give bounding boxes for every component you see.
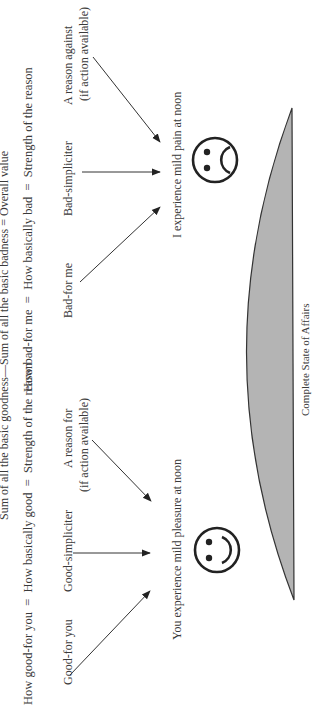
good-for-you-arrow: [70, 591, 150, 675]
overall-value-equation: Sum of all the basic goodness—Sum of all…: [0, 151, 11, 520]
reason-for-condition: (if action available): [77, 398, 91, 492]
smiling-face-icon: [195, 528, 239, 572]
reason-against-arrow: [93, 57, 160, 142]
good-side-equation: How good-for you = How basically good = …: [21, 362, 35, 705]
reason-against-label: A reason against: [61, 25, 75, 105]
pleasure-statement: You experience mild pleasure at noon: [170, 459, 184, 640]
bad-simpliciter-label: Bad-simpliciter: [61, 141, 75, 216]
reason-for-arrow: [92, 440, 151, 501]
frowning-face-icon: [193, 138, 237, 182]
value-diagram: Sum of all the basic goodness—Sum of all…: [0, 0, 317, 710]
good-for-you-label: Good-for you: [61, 619, 75, 685]
bad-side-equation: How bad-for me = How basically bad = Str…: [21, 66, 35, 392]
state-of-affairs-label: Complete State of Affairs: [299, 303, 311, 416]
pain-statement: I experience mild pain at noon: [170, 92, 184, 238]
good-simpliciter-label: Good-simpliciter: [61, 510, 75, 592]
bad-for-me-label: Bad-for me: [61, 263, 75, 318]
reason-against-condition: (if action available): [77, 7, 91, 101]
bad-for-me-arrow: [80, 207, 160, 282]
reason-for-label: A reason for: [61, 409, 75, 468]
state-of-affairs-shape: [246, 108, 294, 600]
